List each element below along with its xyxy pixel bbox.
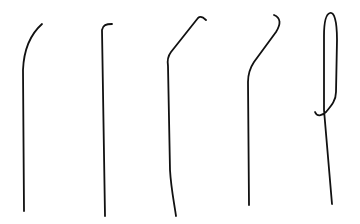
stroke-3-angled-hook (168, 17, 206, 216)
strokes-layer (0, 0, 360, 224)
stroke-5-loop (315, 13, 337, 204)
stroke-2-small-hook (102, 24, 112, 216)
drawing-canvas (0, 0, 360, 224)
stroke-1-curved-left (23, 24, 42, 211)
stroke-4-s-hook (248, 15, 280, 205)
